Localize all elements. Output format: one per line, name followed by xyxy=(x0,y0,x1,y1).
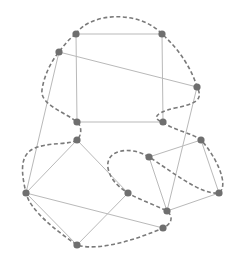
edge-J-L xyxy=(77,193,128,245)
node-C xyxy=(55,48,62,55)
node-B xyxy=(158,30,165,37)
edge-K-N xyxy=(26,193,163,228)
node-L xyxy=(73,241,80,248)
node-J xyxy=(124,189,131,196)
node-E xyxy=(73,118,80,125)
edge-D-M xyxy=(167,87,197,211)
node-K xyxy=(22,189,29,196)
edge-C-K xyxy=(26,52,59,193)
edges-layer xyxy=(26,34,219,245)
node-D xyxy=(193,83,200,90)
node-F xyxy=(159,118,166,125)
edge-H-I xyxy=(149,140,201,157)
edge-G-J xyxy=(77,140,128,193)
node-A xyxy=(72,30,79,37)
node-I xyxy=(197,136,204,143)
edge-H-M xyxy=(149,157,167,211)
dashed-tour-path xyxy=(23,17,223,247)
edge-A-E xyxy=(76,34,77,122)
edge-G-K xyxy=(26,140,77,193)
edge-C-D xyxy=(59,52,197,87)
node-P xyxy=(215,189,222,196)
node-H xyxy=(145,153,152,160)
node-G xyxy=(73,136,80,143)
edge-P-M xyxy=(167,193,219,211)
graph-diagram xyxy=(0,0,245,269)
node-M xyxy=(163,207,170,214)
nodes-layer xyxy=(22,30,222,248)
node-N xyxy=(159,224,166,231)
edge-K-L xyxy=(26,193,77,245)
edge-I-P xyxy=(201,140,219,193)
